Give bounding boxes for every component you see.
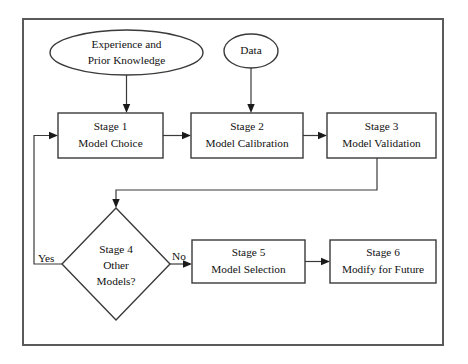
node-data[interactable]: Data	[224, 34, 278, 68]
edge-experience-to-stage1	[123, 75, 130, 113]
edge-label-no: No	[172, 250, 186, 262]
node-stage6-modify-for-future[interactable]: Stage 6 Modify for Future	[330, 240, 436, 283]
flowchart-diagram: Experience and Prior Knowledge Data Stag…	[0, 0, 468, 364]
node-stage3-model-validation[interactable]: Stage 3 Model Validation	[327, 113, 436, 158]
flowchart-canvas: Experience and Prior Knowledge Data Stag…	[0, 0, 468, 364]
node-stage5-model-selection[interactable]: Stage 5 Model Selection	[192, 240, 305, 283]
node-stage4-line3: Models?	[97, 275, 136, 287]
node-stage3-line1: Stage 3	[365, 120, 399, 132]
arrowhead-icon	[318, 132, 327, 139]
node-stage6-line2: Modify for Future	[342, 263, 424, 275]
node-experience-line1: Experience and	[92, 38, 162, 50]
arrowhead-icon	[112, 199, 119, 208]
edge-label-yes: Yes	[38, 252, 54, 264]
node-stage2-model-calibration[interactable]: Stage 2 Model Calibration	[191, 113, 303, 158]
node-stage4-other-models-decision[interactable]: Stage 4 Other Models?	[62, 208, 170, 320]
arrowhead-icon	[247, 104, 254, 113]
node-stage2-line2: Model Calibration	[205, 137, 288, 149]
arrowhead-icon	[182, 132, 191, 139]
node-stage2-line1: Stage 2	[230, 120, 264, 132]
edge-stage2-to-stage3	[303, 132, 327, 139]
edge-stage1-to-stage2	[163, 132, 191, 139]
arrowhead-icon	[123, 104, 130, 113]
arrowhead-icon	[321, 258, 330, 265]
node-data-label: Data	[240, 44, 261, 56]
node-stage6-line1: Stage 6	[366, 246, 400, 258]
node-stage4-line1: Stage 4	[99, 243, 133, 255]
node-stage5-line1: Stage 5	[232, 246, 266, 258]
node-experience-prior-knowledge[interactable]: Experience and Prior Knowledge	[50, 30, 203, 75]
node-experience-line2: Prior Knowledge	[88, 54, 166, 66]
node-stage5-line2: Model Selection	[211, 263, 286, 275]
node-stage1-line2: Model Choice	[78, 137, 142, 149]
edge-stage5-to-stage6	[305, 258, 330, 265]
node-stage1-line1: Stage 1	[94, 120, 128, 132]
node-stage3-line2: Model Validation	[342, 137, 421, 149]
edge-data-to-stage2	[247, 68, 254, 113]
node-stage1-model-choice[interactable]: Stage 1 Model Choice	[58, 113, 163, 158]
node-stage4-line2: Other	[103, 259, 129, 271]
arrowhead-icon	[49, 132, 58, 139]
edge-stage3-to-stage4	[112, 158, 377, 208]
